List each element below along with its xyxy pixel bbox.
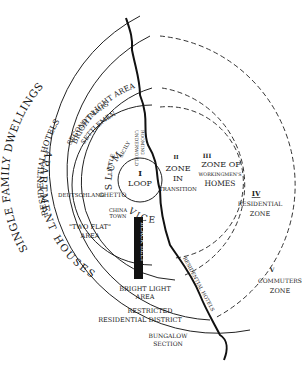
label-two-flat: "TWO FLAT": [69, 223, 111, 231]
concentric-zone-diagram: BLACK BELT SINGLE FAMILY DWELLINGS RESID…: [0, 0, 305, 368]
zone-ii-line2: IN: [173, 174, 183, 183]
zone-v-line1: COMMUTERS: [258, 277, 302, 284]
label-ghetto: GHETTO: [99, 191, 127, 198]
label-deutschland: DEUTSCHLAND: [58, 192, 105, 198]
label-two-flat-area: AREA: [79, 232, 99, 240]
label-restricted: RESTRICTED: [127, 307, 172, 315]
label-bright-light-area: AREA: [134, 293, 154, 301]
zone-iii-line2: WORKINGMEN'S: [198, 172, 241, 177]
label-section: SECTION: [153, 340, 183, 347]
zone-v-line2: ZONE: [270, 287, 291, 295]
zone-iii-numeral: III: [203, 152, 212, 159]
label-apartment-houses: APARTMENT HOUSES: [38, 148, 99, 280]
label-residential-hotels-right: RESIDENTIAL HOTELS: [182, 256, 216, 313]
label-bright-light: BRIGHT LIGHT: [119, 285, 171, 293]
label-bungalow: BUNGALOW: [149, 332, 189, 339]
zone-iii-line3: HOMES: [205, 179, 236, 188]
label-sicily: SICILY: [118, 140, 132, 159]
zone-i-name: LOOP: [128, 179, 152, 188]
zone-iv-line1: RESIDENTIAL: [238, 200, 283, 207]
zone-i-numeral: I: [138, 168, 142, 178]
label-underworld: UNDERWORLD: [134, 130, 139, 167]
zone-ii-line1: ZONE: [166, 164, 191, 173]
zone-ii-line3: TRANSITION: [159, 186, 197, 192]
label-rooming: ROOMING: [140, 130, 145, 155]
zone-ii-numeral: II: [173, 154, 179, 160]
zone-iii-line1: ZONE OF: [201, 160, 241, 169]
black-belt-label: BLACK BELT: [140, 222, 147, 262]
zone-v-numeral: V: [269, 266, 275, 273]
label-vice: VICE: [126, 205, 158, 225]
label-bright-light-area-arc: BRIGHT LIGHT AREA: [70, 81, 137, 145]
label-town: TOWN: [110, 213, 128, 219]
label-residential-district: RESIDENTIAL DISTRICT: [98, 316, 182, 324]
zone-iv-numeral: IV: [252, 189, 261, 198]
zone-iv-line2: ZONE: [250, 210, 271, 218]
